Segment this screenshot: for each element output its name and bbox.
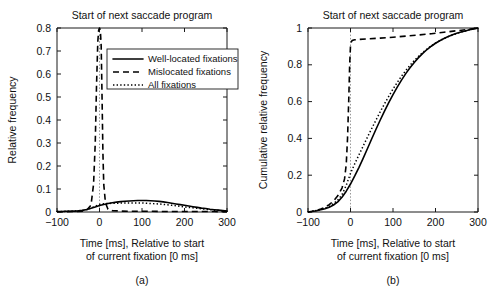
x-tick-label: 200 xyxy=(427,216,445,228)
x-tick-label: 100 xyxy=(384,216,402,228)
x-tick-label: 300 xyxy=(469,216,487,228)
y-tick-label: 1 xyxy=(296,22,302,34)
y-axis-ticks: 00.20.40.60.81 xyxy=(287,22,478,218)
y-axis-label: Relative frequency xyxy=(6,76,18,164)
x-tick-label: 0 xyxy=(348,216,354,228)
series-group xyxy=(308,28,478,212)
legend-label: Mislocated fixations xyxy=(148,66,231,77)
x-axis-ticks: −1000100200300 xyxy=(296,28,487,228)
panel-caption: (b) xyxy=(387,274,400,286)
x-axis-label-line2: of current fixation [0 ms] xyxy=(337,250,449,262)
chart-title: Start of next saccade program xyxy=(323,9,464,21)
x-tick-label: 100 xyxy=(133,216,151,228)
y-tick-label: 0.6 xyxy=(36,68,51,80)
x-tick-label: 300 xyxy=(218,216,236,228)
y-tick-label: 0.7 xyxy=(36,45,51,57)
series-line-dotted xyxy=(308,28,478,212)
y-tick-label: 0.4 xyxy=(287,132,302,144)
chart-panel-a: Start of next saccade program00.10.20.30… xyxy=(0,0,251,290)
series-line-dashed xyxy=(308,28,478,212)
y-tick-label: 0.1 xyxy=(36,183,51,195)
y-axis-label: Cumulative relative frequency xyxy=(257,50,269,189)
x-axis-label-line2: of current fixation [0 ms] xyxy=(86,250,198,262)
y-tick-label: 0.4 xyxy=(36,114,51,126)
y-tick-label: 0.3 xyxy=(36,137,51,149)
chart-panel-b: Start of next saccade program00.20.40.60… xyxy=(251,0,502,290)
y-tick-label: 0.2 xyxy=(287,169,302,181)
legend-label: Well-located fixations xyxy=(148,53,238,64)
axis-frame xyxy=(308,28,478,212)
y-tick-label: 0.5 xyxy=(36,91,51,103)
y-tick-label: 0.2 xyxy=(36,160,51,172)
y-tick-label: 0.8 xyxy=(287,58,302,70)
legend-label: All fixations xyxy=(148,79,196,90)
x-tick-label: 200 xyxy=(176,216,194,228)
x-axis-label-line1: Time [ms], Relative to start xyxy=(331,237,456,249)
series-line-solid xyxy=(308,28,478,212)
figure-container: Start of next saccade program00.10.20.30… xyxy=(0,0,502,290)
x-tick-label: −100 xyxy=(45,216,69,228)
y-tick-label: 0.6 xyxy=(287,95,302,107)
y-tick-label: 0.8 xyxy=(36,22,51,34)
chart-legend: Well-located fixationsMislocated fixatio… xyxy=(107,49,238,90)
x-tick-label: −100 xyxy=(296,216,320,228)
x-axis-label-line1: Time [ms], Relative to start xyxy=(80,237,205,249)
chart-title: Start of next saccade program xyxy=(72,9,213,21)
x-tick-label: 0 xyxy=(97,216,103,228)
panel-caption: (a) xyxy=(136,274,149,286)
